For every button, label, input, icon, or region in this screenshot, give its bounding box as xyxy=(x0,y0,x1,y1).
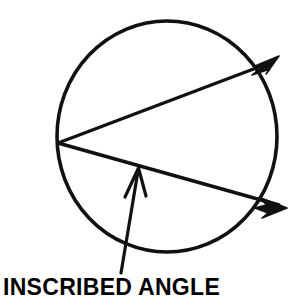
caption-inscribed-angle: INSCRIBED ANGLE xyxy=(3,274,293,300)
figure-background xyxy=(0,0,294,306)
inscribed-angle-figure xyxy=(0,0,294,306)
